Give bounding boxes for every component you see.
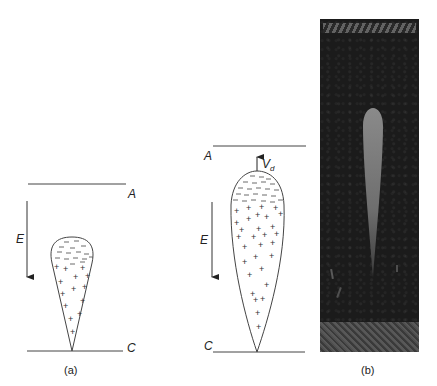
cathode-label: C (204, 339, 213, 353)
svg-text:+: + (247, 270, 252, 280)
svg-text:+: + (255, 210, 260, 220)
streamer-glow (361, 108, 385, 278)
svg-text:+: + (278, 209, 283, 219)
negative-charges (55, 241, 93, 264)
stray-spark (396, 265, 398, 272)
caption-b: (b) (361, 364, 374, 376)
svg-text:+: + (60, 289, 65, 299)
field-label: E (16, 232, 25, 246)
svg-text:+: + (80, 296, 85, 306)
svg-text:+: + (264, 280, 269, 290)
velocity-subscript: d (270, 164, 275, 173)
cathode-electrode-band (320, 322, 419, 352)
anode-label: A (203, 149, 212, 163)
svg-text:+: + (68, 314, 73, 324)
svg-text:+: + (242, 242, 247, 252)
svg-text:+: + (262, 230, 267, 240)
svg-text:+: + (246, 203, 251, 213)
svg-text:+: + (234, 206, 239, 216)
panel-b-sketch: A V d E ++++ +++ ++ +++ ++++ +++ ++ + + … (200, 146, 306, 353)
svg-text:+: + (85, 271, 90, 281)
positive-charges: ++++ +++ ++ +++ ++++ +++ ++ + + + ++ ++ … (234, 202, 283, 332)
caption-a: (a) (64, 364, 77, 376)
svg-text:+: + (236, 232, 241, 242)
svg-text:+: + (253, 252, 258, 262)
svg-text:+: + (258, 240, 263, 250)
svg-text:+: + (54, 262, 59, 272)
svg-text:+: + (269, 251, 274, 261)
svg-text:+: + (253, 295, 258, 305)
svg-text:+: + (270, 238, 275, 248)
svg-text:+: + (63, 264, 68, 274)
anode-label: A (127, 187, 136, 201)
panel-a: A E ++++ +++ ++ ++ ++ + C (a) (16, 184, 136, 376)
svg-text:+: + (260, 294, 265, 304)
svg-text:+: + (256, 224, 261, 234)
svg-text:+: + (242, 257, 247, 267)
svg-text:+: + (264, 212, 269, 222)
svg-text:+: + (255, 308, 260, 318)
svg-text:+: + (256, 322, 261, 332)
svg-text:+: + (58, 277, 63, 287)
svg-text:+: + (82, 282, 87, 292)
svg-text:+: + (251, 232, 256, 242)
svg-text:+: + (70, 327, 75, 337)
positive-charges: ++++ +++ ++ ++ ++ + (54, 262, 90, 337)
svg-text:+: + (63, 301, 68, 311)
anode-electrode-band (323, 23, 416, 33)
svg-text:+: + (71, 284, 76, 294)
cathode-label: C (127, 341, 136, 355)
streamer-photograph (320, 19, 419, 352)
field-label: E (200, 233, 209, 247)
svg-text:+: + (259, 264, 264, 274)
svg-text:+: + (77, 309, 82, 319)
svg-text:+: + (246, 214, 251, 224)
svg-text:+: + (73, 272, 78, 282)
